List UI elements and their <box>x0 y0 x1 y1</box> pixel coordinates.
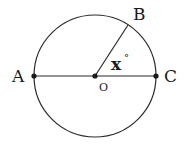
label-c: C <box>164 66 177 86</box>
point-c <box>153 73 158 78</box>
label-b: B <box>133 4 146 24</box>
degree-symbol: ° <box>124 52 129 63</box>
point-a <box>31 73 36 78</box>
label-o: O <box>99 81 108 94</box>
angle-label: x <box>111 54 122 74</box>
angle-variable: x <box>111 54 122 74</box>
circle-diagram: A B C O x ° <box>0 0 184 146</box>
point-o <box>92 73 97 78</box>
label-a: A <box>11 66 25 86</box>
